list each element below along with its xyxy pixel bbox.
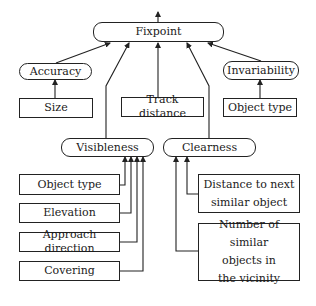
node-label: Invariability (227, 64, 295, 78)
node-visibleness: Visibleness (61, 138, 154, 157)
node-label: Accuracy (30, 65, 82, 79)
node-label: Size (44, 101, 67, 115)
node-distance-next: Distance to next similar object (198, 174, 300, 213)
node-elevation: Elevation (19, 203, 120, 223)
node-label: Visibleness (76, 141, 138, 155)
node-number-similar: Number of similar objects in the vicinit… (198, 223, 300, 281)
node-invariability: Invariability (223, 61, 299, 80)
node-approach-direction: Approach direction (19, 232, 120, 252)
node-label: Track distance (122, 93, 203, 121)
node-fixpoint: Fixpoint (93, 22, 224, 42)
node-accuracy: Accuracy (19, 63, 92, 80)
node-size: Size (19, 98, 93, 118)
node-label: Approach direction (20, 228, 119, 256)
node-label: Distance to next similar object (204, 176, 295, 212)
node-label: Object type (228, 101, 292, 115)
node-label: Object type (37, 178, 101, 192)
node-clearness: Clearness (163, 138, 256, 157)
node-label: Elevation (43, 206, 95, 220)
node-label: Fixpoint (135, 25, 181, 39)
node-covering: Covering (19, 261, 120, 281)
node-label: Number of similar objects in the vicinit… (199, 216, 299, 288)
node-object-type-left: Object type (19, 174, 120, 195)
node-label: Covering (44, 264, 95, 278)
node-track-distance: Track distance (121, 97, 204, 117)
node-object-type-right: Object type (223, 98, 297, 117)
node-label: Clearness (182, 141, 237, 155)
